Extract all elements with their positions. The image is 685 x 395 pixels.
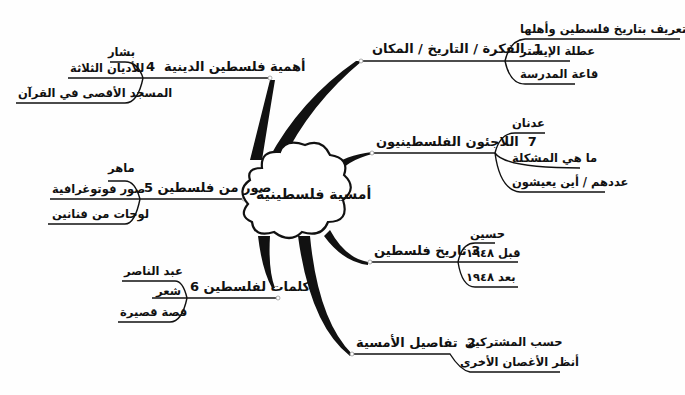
branch-6-child-2[interactable]: شعر [156,286,181,298]
branch-7-child-1[interactable]: عدنان [512,118,545,130]
branch-2-label[interactable]: 2 تفاصيل الأمسية [356,336,476,349]
branch-6-child-1[interactable]: عبد الناصر [124,266,183,278]
branch-6-child-3[interactable]: قصة قصيرة [120,307,187,319]
branch-4-child-2[interactable]: للأديان الثلاثة [70,63,144,75]
branch-3-child-3[interactable]: بعد ١٩٤٨ [466,272,516,284]
branch-5-child-3[interactable]: لوحات من فنانين [52,209,149,221]
trunk-3 [324,230,368,265]
branch-4-label[interactable]: أهمية فلسطين الدينية 4 [146,60,305,73]
branch-1-child-1[interactable]: تعريف بتاريخ فلسطين وأهلها [520,24,685,36]
branch-5-label[interactable]: صور من فلسطين 5 [144,181,271,194]
branch-1-child-2[interactable]: عطلة الإيستر [520,46,595,58]
branch-3-child-1[interactable]: حسين [470,229,505,241]
branch-5-child-2[interactable]: صور فوتوغرافية [52,184,145,196]
branch-7-label[interactable]: 7 اللاجئون الفلسطينيون [376,135,537,148]
branch-3-child-2[interactable]: قبل ١٩٤٨ [466,248,521,260]
branch-2-child-1[interactable]: حسب المشتركين [465,337,562,349]
branch-6-label[interactable]: كلمات لفلسطين 6 [190,280,310,293]
branch-7-child-2[interactable]: ما هي المشكلة [512,153,597,165]
branch-4-child-3[interactable]: المسجد الأقصى في القرآن [18,88,172,100]
branch-4-child-1[interactable]: بشار [108,47,135,59]
branch-7-child-3[interactable]: عددهم / أين يعيشون [512,177,628,189]
branch-1-child-3[interactable]: قاعة المدرسة [520,69,598,81]
trunk-4 [250,80,275,160]
branch-3-label[interactable]: 3 تاريخ فلسطين [374,244,480,257]
branch-5-child-1[interactable]: ماهر [108,163,135,175]
center-topic[interactable]: أمسية فلسطينية [256,187,371,201]
mind-map: أمسية فلسطينية 1 الفكرة / التاريخ / المك… [0,0,685,395]
branch-2-child-2[interactable]: أنظر الأغصان الأخرى [460,357,579,369]
branch-1-label[interactable]: 1 الفكرة / التاريخ / المكان [372,42,543,55]
